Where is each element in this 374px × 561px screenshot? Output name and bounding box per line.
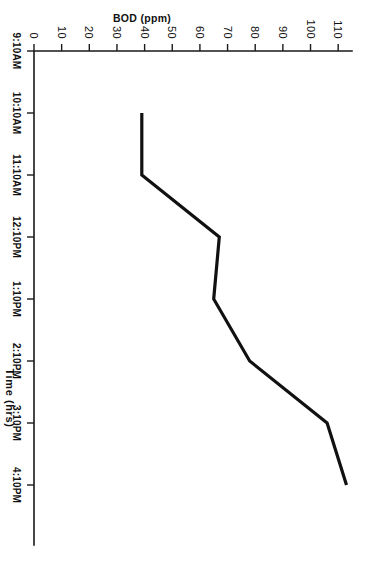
y-tick-label: 40 xyxy=(139,26,151,39)
x-tick-label: 4:10PM xyxy=(11,467,22,503)
data-series-group xyxy=(142,113,347,485)
y-tick-label: 10 xyxy=(56,26,68,39)
axis-spine-path xyxy=(34,51,352,545)
chart-figure: 0102030405060708090100110 9:10AM10:10AM1… xyxy=(0,0,374,561)
y-tick-label: 90 xyxy=(277,26,289,39)
y-tick-label: 100 xyxy=(305,19,317,39)
x-axis-ticks: 9:10AM10:10AM11:10AM12:10PM1:10PM2:10PM3… xyxy=(11,33,34,504)
y-tick-label: 110 xyxy=(332,20,344,39)
y-axis-title: BOD (ppm) xyxy=(113,12,171,24)
x-tick-label: 1:10PM xyxy=(11,281,22,317)
y-tick-label: 80 xyxy=(249,26,261,39)
x-tick-label: 9:10AM xyxy=(11,33,22,70)
axis-spines xyxy=(34,51,352,545)
y-tick-label: 50 xyxy=(166,26,178,39)
data-line-bod xyxy=(142,113,347,485)
y-tick-label: 30 xyxy=(111,26,123,39)
y-axis-ticks: 0102030405060708090100110 xyxy=(28,19,344,51)
x-axis-title: Time (hrs) xyxy=(4,369,16,428)
chart-rotated-container: 0102030405060708090100110 9:10AM10:10AM1… xyxy=(0,0,374,561)
x-tick-label: 12:10PM xyxy=(11,216,22,258)
y-tick-label: 70 xyxy=(222,26,234,39)
y-tick-label: 60 xyxy=(194,26,206,39)
x-tick-label: 10:10AM xyxy=(11,92,22,135)
y-tick-label: 0 xyxy=(28,32,40,39)
y-tick-label: 20 xyxy=(83,26,95,39)
line-chart-svg: 0102030405060708090100110 9:10AM10:10AM1… xyxy=(0,0,374,561)
x-tick-label: 11:10AM xyxy=(11,154,22,196)
